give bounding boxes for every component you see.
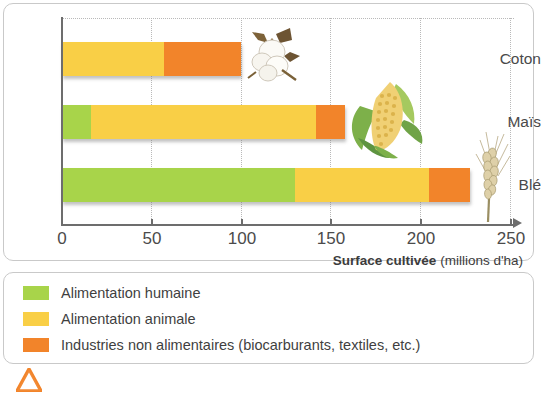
x-tick-100 [241, 219, 243, 225]
x-axis-title-units: (millions d'ha) [436, 253, 523, 268]
x-tick-label-0: 0 [57, 229, 66, 249]
x-tick-label-50: 50 [143, 229, 162, 249]
bar-coton-segment-animale [62, 42, 164, 76]
bar-mais-segment-animale [91, 105, 316, 139]
x-tick-label-200: 200 [407, 229, 435, 249]
legend-item-animale: Alimentation animale [23, 311, 196, 327]
legend-label-industries: Industries non alimentaires (biocarburan… [61, 337, 420, 353]
x-tick-label-150: 150 [317, 229, 345, 249]
cotton-boll-icon [246, 26, 302, 88]
x-axis-arrowhead [513, 218, 522, 228]
category-label-coton: Coton [485, 50, 541, 68]
legend-item-industries: Industries non alimentaires (biocarburan… [23, 337, 420, 353]
legend-label-humaine: Alimentation humaine [61, 285, 200, 301]
legend-item-humaine: Alimentation humaine [23, 285, 200, 301]
bar-ble-segment-humaine [62, 168, 295, 202]
x-axis-line [61, 224, 516, 226]
x-tick-50 [151, 219, 153, 225]
legend-swatch-animale [23, 312, 49, 326]
x-axis-title-strong: Surface cultivée [333, 253, 437, 268]
x-tick-250 [510, 219, 512, 225]
x-tick-200 [420, 219, 422, 225]
category-label-mais: Maïs [485, 113, 541, 131]
legend-swatch-humaine [23, 286, 49, 300]
bar-ble-segment-animale [295, 168, 429, 202]
y-axis-line [61, 17, 63, 225]
grid-top-border [62, 18, 514, 19]
bar-coton [62, 42, 241, 76]
bar-ble-segment-industries [429, 168, 470, 202]
legend-panel: Alimentation humaine Alimentation animal… [3, 272, 534, 364]
bar-ble [62, 168, 470, 202]
bar-mais-segment-industries [316, 105, 345, 139]
x-tick-150 [330, 219, 332, 225]
maize-cob-icon [344, 76, 426, 160]
x-tick-0 [61, 219, 63, 225]
caret-marker-icon [16, 368, 42, 392]
legend-label-animale: Alimentation animale [61, 311, 196, 327]
bar-coton-segment-industries [164, 42, 241, 76]
x-tick-label-250: 250 [497, 229, 525, 249]
legend-swatch-industries [23, 338, 49, 352]
x-tick-label-100: 100 [228, 229, 256, 249]
x-axis-title: Surface cultivée (millions d'ha) [333, 253, 523, 268]
chart-figure: Coton Maïs Blé 0 50 100 150 200 250 Surf… [0, 0, 541, 395]
bar-mais [62, 105, 345, 139]
bar-mais-segment-humaine [62, 105, 91, 139]
category-label-ble: Blé [485, 176, 541, 194]
